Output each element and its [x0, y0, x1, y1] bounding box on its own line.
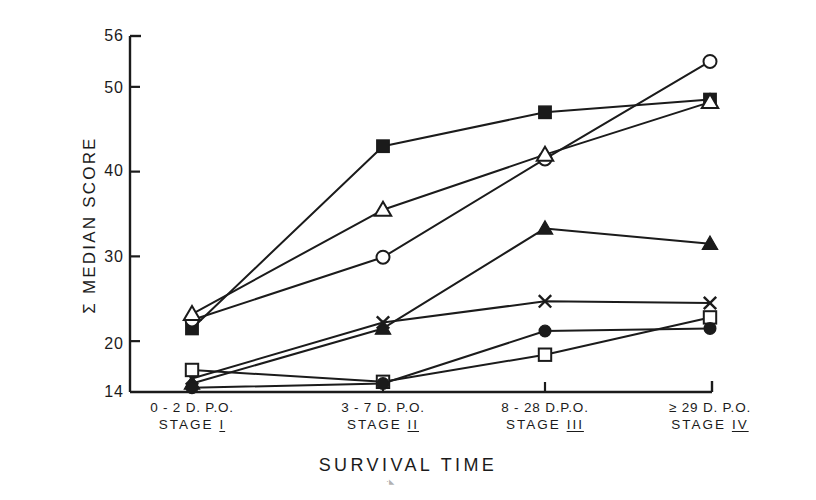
- marker-open-square: [704, 311, 716, 323]
- marker-filled-circle: [186, 382, 198, 394]
- chart-figure: Σ MEDIAN SCORE SURVIVAL TIME 56 50 40 30…: [0, 0, 816, 500]
- series-line-filled-circle: [192, 328, 710, 387]
- series-line-open-square: [192, 317, 710, 381]
- series-cross-x: [192, 301, 710, 378]
- marker-open-square: [186, 364, 198, 376]
- series-open-square: [192, 317, 710, 381]
- series-line-open-triangle: [192, 102, 710, 314]
- series-line-open-circle: [192, 61, 710, 320]
- series-line-cross-x: [192, 301, 710, 378]
- series-markers-filled-square: [186, 93, 716, 334]
- series-open-circle: [192, 61, 710, 320]
- marker-open-circle: [377, 251, 390, 264]
- page-smudge: ·◣: [386, 476, 408, 483]
- chart-axes: [130, 36, 712, 392]
- series-open-triangle: [192, 102, 710, 314]
- marker-open-triangle: [184, 306, 200, 320]
- marker-filled-square: [539, 106, 551, 118]
- marker-filled-circle: [704, 323, 716, 335]
- series-filled-circle: [192, 328, 710, 387]
- series-line-filled-triangle: [192, 228, 710, 383]
- series-markers-filled-triangle: [184, 221, 717, 390]
- marker-filled-circle: [539, 325, 551, 337]
- marker-filled-triangle: [537, 221, 552, 234]
- series-markers-open-square: [186, 311, 716, 388]
- marker-open-circle: [704, 55, 717, 68]
- marker-filled-circle: [377, 378, 389, 390]
- chart-series-layer: [184, 55, 718, 394]
- series-filled-triangle: [192, 228, 710, 383]
- chart-plot-area: [0, 0, 816, 500]
- marker-filled-square: [377, 140, 389, 152]
- marker-open-square: [539, 349, 551, 361]
